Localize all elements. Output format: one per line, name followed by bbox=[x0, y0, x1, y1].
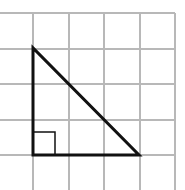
right-triangle bbox=[33, 48, 139, 155]
grid-triangle-diagram bbox=[0, 0, 185, 190]
right-angle-marker bbox=[33, 132, 55, 154]
